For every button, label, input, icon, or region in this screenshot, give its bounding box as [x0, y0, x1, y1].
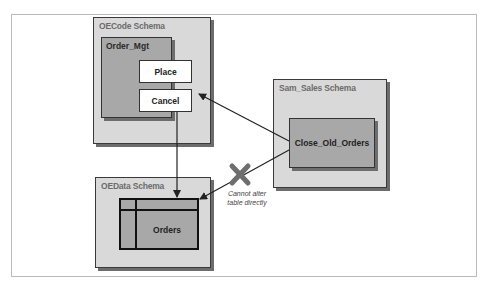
blocked-note-line-2: table directly	[222, 198, 272, 207]
edges-layer	[0, 0, 487, 289]
blocked-note: Cannot alter table directly	[222, 189, 272, 207]
blocked-note-line-1: Cannot alter	[222, 189, 272, 198]
arrow-close-old-orders-to-cancel	[199, 94, 289, 141]
